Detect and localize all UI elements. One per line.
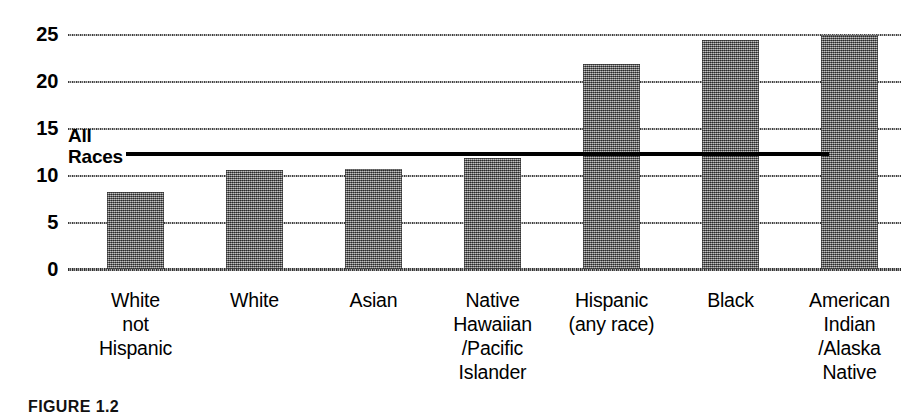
figure-caption: FIGURE 1.2 [28,398,119,413]
gridline-25 [68,34,901,36]
y-tick-label: 5 [12,212,58,232]
y-tick-label: 15 [12,118,58,138]
bar [583,64,640,269]
y-tick-label: 10 [12,165,58,185]
all-races-reference-line [126,152,829,156]
bar [345,169,402,269]
x-axis-labels: White not HispanicWhiteAsianNative Hawai… [68,288,901,383]
y-tick-label: 20 [12,71,58,91]
y-tick-label: 0 [12,259,58,279]
y-axis: 25 20 15 10 5 0 [10,0,58,413]
x-axis-label: American Indian /Alaska Native [778,288,908,384]
all-races-label: All Races [68,125,123,167]
bar [464,158,521,269]
y-tick-label: 25 [12,24,58,44]
figure-root: 25 20 15 10 5 0 All Races White not Hisp… [0,0,908,413]
bar [821,35,878,269]
plot-area: All Races [68,0,901,285]
gridline-20 [68,81,901,83]
bar [107,192,164,269]
bar [226,170,283,269]
gridline-15 [68,128,901,130]
